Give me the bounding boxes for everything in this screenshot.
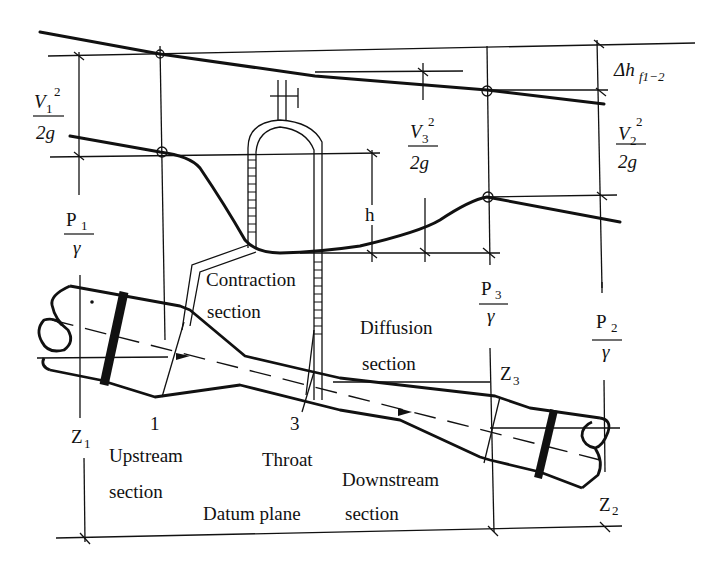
label-v3-velocity-head: V 3 2 2g: [408, 114, 438, 173]
label-head-loss: Δh f1−2: [613, 59, 665, 84]
label-v1-velocity-head: V 1 2 2g: [33, 84, 64, 143]
svg-text:Z: Z: [599, 494, 611, 515]
z1-vertical-line-lower: [84, 458, 85, 542]
upstream-flange: [104, 292, 124, 385]
svg-text:1: 1: [46, 101, 53, 116]
datum-plane-line: [56, 526, 622, 538]
flow-arrow-2: [398, 408, 412, 416]
total-head-reference-line: [48, 43, 695, 56]
venturi-pipe-upper-wall: [70, 286, 600, 418]
pipe-dot: [90, 300, 94, 304]
svg-text:1: 1: [84, 436, 91, 451]
svg-text:2: 2: [54, 84, 61, 99]
label-upstream-line2: section: [109, 481, 163, 502]
piezo-1-reference-line: [50, 153, 380, 157]
label-downstream-line2: section: [345, 503, 399, 524]
venturi-meter-diagram: V 1 2 2g P 1 γ V 3 2 2g V 2 2 2g Δh f1−2…: [0, 0, 728, 577]
piezo-3-reference-line: [487, 195, 617, 197]
energy-grade-line: [40, 32, 604, 104]
label-upstream-line1: Upstream: [109, 445, 183, 466]
section-p3-vertical-line: [487, 46, 490, 265]
label-z1: Z 1: [71, 426, 91, 451]
z2-vertical-line: [604, 380, 605, 472]
label-diffusion-line1: Diffusion: [360, 317, 433, 338]
label-throat: Throat: [262, 449, 313, 470]
svg-text:2g: 2g: [618, 151, 637, 172]
svg-text:f1−2: f1−2: [639, 69, 665, 84]
label-p2-pressure-head: P 2 γ: [592, 311, 622, 362]
z1-reference-line: [37, 357, 168, 358]
svg-text:P: P: [66, 209, 77, 230]
svg-text:γ: γ: [73, 237, 81, 258]
tick: [597, 192, 607, 200]
label-diffusion-line2: section: [362, 353, 416, 374]
svg-text:Δh: Δh: [613, 59, 635, 80]
label-contraction-line2: section: [207, 301, 261, 322]
svg-text:2g: 2g: [36, 122, 55, 143]
downstream-flange: [538, 410, 554, 478]
svg-text:Z: Z: [71, 426, 83, 447]
label-z3: Z 3: [500, 363, 520, 388]
svg-text:2g: 2g: [410, 152, 429, 173]
svg-text:2: 2: [428, 114, 435, 129]
svg-text:3: 3: [495, 287, 502, 302]
svg-text:2: 2: [630, 133, 637, 148]
label-datum-plane: Datum plane: [203, 503, 301, 524]
svg-text:2: 2: [636, 114, 643, 129]
label-p1-pressure-head: P 1 γ: [64, 209, 94, 258]
svg-text:P: P: [481, 278, 492, 299]
tick: [488, 526, 498, 536]
svg-text:2: 2: [611, 320, 618, 335]
z3-vertical-line: [490, 348, 494, 532]
manometer-scale-right: [314, 262, 322, 334]
svg-text:3: 3: [422, 131, 429, 146]
svg-text:1: 1: [81, 218, 88, 233]
svg-text:3: 3: [513, 373, 520, 388]
manometer-scale-left: [248, 160, 256, 232]
label-h: h: [365, 204, 375, 225]
label-z2: Z 2: [599, 494, 619, 518]
label-v2-velocity-head: V 2 2 2g: [616, 114, 646, 172]
svg-text:Z: Z: [500, 363, 512, 384]
label-contraction-line1: Contraction: [206, 269, 296, 290]
svg-text:γ: γ: [487, 305, 495, 326]
svg-text:γ: γ: [602, 341, 610, 362]
svg-text:2: 2: [612, 503, 619, 518]
v3-reference-line: [315, 71, 463, 72]
svg-text:P: P: [596, 311, 607, 332]
label-section-1: 1: [150, 413, 160, 434]
tick: [594, 40, 604, 48]
section-1-vertical-line: [160, 46, 165, 340]
label-downstream-line1: Downstream: [342, 469, 439, 490]
label-section-3: 3: [290, 413, 300, 434]
right-dimension-line: [597, 40, 602, 288]
label-p3-pressure-head: P 3 γ: [479, 278, 508, 326]
manometer-inner: [256, 127, 314, 400]
